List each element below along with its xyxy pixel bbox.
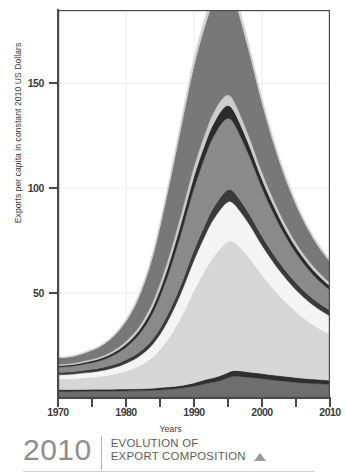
- caption-line-1: EVOLUTION OF: [111, 437, 199, 449]
- y-tick-label: 50: [18, 288, 44, 298]
- chart-plot-area: [58, 10, 330, 398]
- x-minor-tick-mark: [295, 399, 297, 407]
- caption-line-2: EXPORT COMPOSITION: [111, 450, 246, 462]
- x-tick-label: 1970: [38, 406, 78, 418]
- x-minor-tick-mark: [159, 399, 161, 407]
- y-tick-mark: [49, 187, 57, 189]
- x-tick-label: 1980: [106, 406, 146, 418]
- y-tick-mark: [49, 82, 57, 84]
- x-minor-tick-mark: [227, 399, 229, 407]
- caption-year: 2010: [23, 435, 101, 465]
- triangle-up-icon: [254, 453, 266, 461]
- caption-rule: [23, 471, 315, 472]
- x-tick-label: 2000: [242, 406, 282, 418]
- x-minor-tick-mark: [91, 399, 93, 407]
- x-tick-label: 1990: [174, 406, 214, 418]
- y-axis-line: [57, 9, 59, 399]
- x-tick-label: 2010: [310, 406, 346, 418]
- caption-title: EVOLUTION OF EXPORT COMPOSITION: [102, 435, 266, 463]
- y-axis-title: Exports per capita in constant 2010 US D…: [13, 27, 23, 239]
- figure-caption: 2010 EVOLUTION OF EXPORT COMPOSITION: [23, 435, 323, 473]
- stacked-area-svg: [58, 10, 330, 398]
- y-tick-mark: [49, 292, 57, 294]
